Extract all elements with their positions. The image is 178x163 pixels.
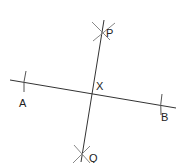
label-x: X — [96, 80, 104, 92]
label-a: A — [19, 97, 27, 109]
construction-diagram: A B X P Q — [0, 0, 178, 163]
line-ab — [10, 80, 176, 108]
label-b: B — [161, 111, 168, 123]
label-p: P — [106, 27, 113, 39]
arc-mark-a — [24, 71, 26, 92]
label-q: Q — [89, 152, 98, 163]
